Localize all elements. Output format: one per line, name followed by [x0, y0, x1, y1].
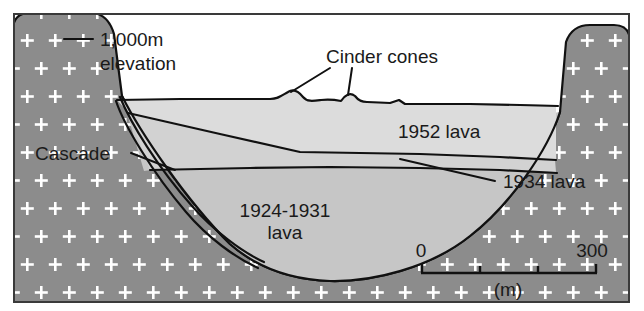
cinder-cones-label: Cinder cones	[326, 46, 438, 67]
elevation-label-line2: elevation	[100, 53, 176, 74]
cinder-cone-leader-left	[291, 68, 330, 92]
scale-bar-min-label: 0	[416, 240, 427, 261]
lava-1924-label-line2: lava	[268, 222, 303, 243]
scale-bar-max-label: 300	[576, 240, 608, 261]
cross-section-figure: 1,000m elevation Cinder cones Cascade 19…	[0, 0, 644, 311]
lava-1924-label-line1: 1924-1931	[240, 200, 331, 221]
elevation-label-line1: 1,000m	[100, 29, 163, 50]
scale-bar-units-label: (m)	[494, 279, 522, 300]
cascade-label: Cascade	[35, 143, 110, 164]
lava-1934-label: 1934 lava	[503, 171, 586, 192]
lava-1952-label: 1952 lava	[398, 121, 481, 142]
cinder-cone-leader-right	[348, 68, 352, 95]
cross-section-svg: 1,000m elevation Cinder cones Cascade 19…	[0, 0, 644, 311]
